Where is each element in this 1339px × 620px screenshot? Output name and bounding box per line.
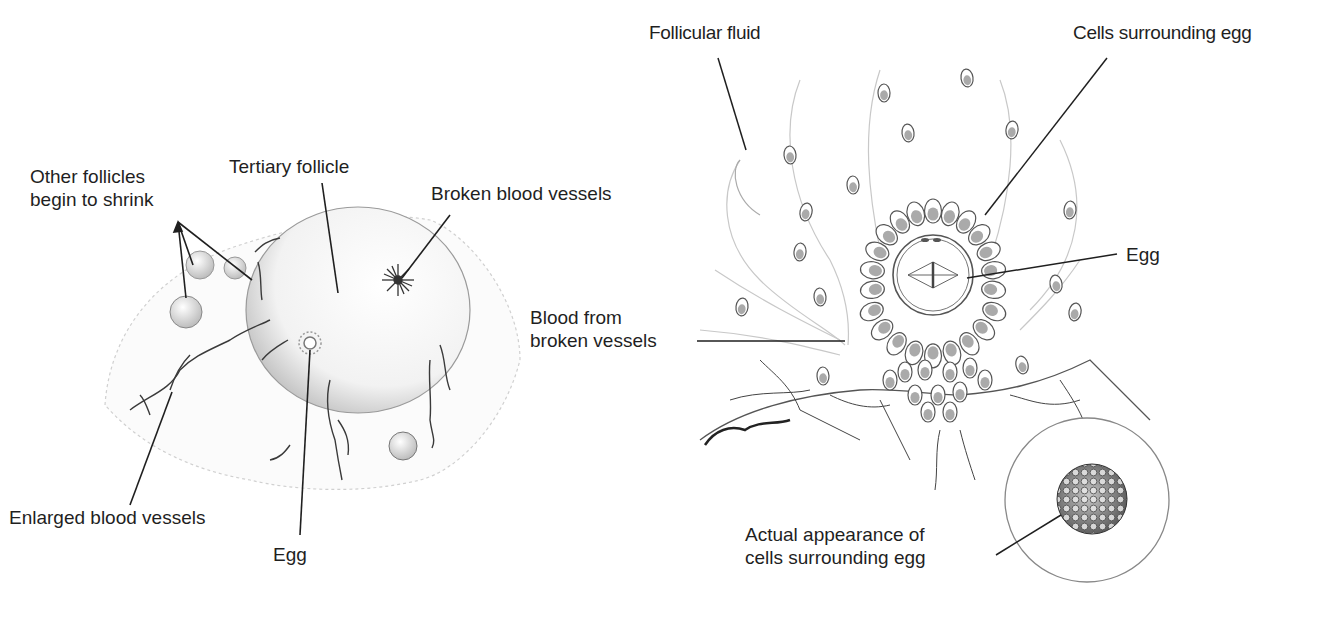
label-other-follicles: Other follicles begin to shrink	[30, 165, 154, 211]
label-egg-right: Egg	[1126, 243, 1160, 266]
ovary-illustration	[105, 207, 520, 489]
label-line-1: Other follicles	[30, 165, 154, 188]
label-line-2: cells surrounding egg	[745, 546, 926, 569]
label-line-1: Actual appearance of	[745, 523, 926, 546]
label-cells-surrounding-egg: Cells surrounding egg	[1073, 21, 1252, 44]
label-follicular-fluid: Follicular fluid	[649, 21, 760, 44]
label-enlarged-blood-vessels: Enlarged blood vessels	[9, 506, 205, 529]
label-tertiary-follicle: Tertiary follicle	[229, 155, 349, 178]
label-line-1: Blood from	[530, 306, 657, 329]
label-broken-blood-vessels: Broken blood vessels	[431, 182, 612, 205]
label-line-2: begin to shrink	[30, 188, 154, 211]
label-actual-appearance: Actual appearance of cells surrounding e…	[745, 523, 926, 569]
label-line-2: broken vessels	[530, 329, 657, 352]
label-egg-left: Egg	[273, 543, 307, 566]
label-blood-from-broken-vessels: Blood from broken vessels	[530, 306, 657, 352]
morula-inset	[1005, 418, 1169, 582]
